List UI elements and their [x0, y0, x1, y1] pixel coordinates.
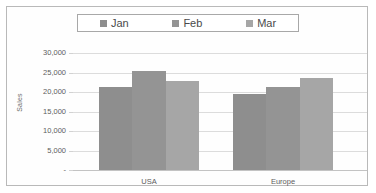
- chart-legend[interactable]: Jan Feb Mar: [77, 14, 299, 32]
- chart-container[interactable]: Jan Feb Mar Sales -5,00010,00015,00020,0…: [6, 6, 368, 186]
- y-axis-tick: [69, 151, 73, 152]
- legend-item-jan[interactable]: Jan: [100, 18, 129, 29]
- x-axis-category-label: USA: [99, 177, 199, 186]
- y-axis-title: Sales: [16, 83, 23, 123]
- legend-item-feb[interactable]: Feb: [172, 18, 202, 29]
- y-axis-tick: [69, 73, 73, 74]
- y-axis-tick-label: 30,000: [43, 49, 66, 57]
- y-axis-tick-label: -: [64, 166, 67, 174]
- y-axis-tick-label: 15,000: [43, 108, 66, 116]
- y-axis-tick: [69, 112, 73, 113]
- legend-label-feb: Feb: [183, 18, 202, 29]
- y-axis-tick-label: 10,000: [43, 127, 66, 135]
- legend-swatch-mar: [246, 20, 253, 27]
- y-axis-tick-label: 20,000: [43, 88, 66, 96]
- bar-usa-feb[interactable]: [132, 71, 165, 170]
- bar-group-usa: USA: [99, 53, 199, 170]
- bar-group-europe: Europe: [233, 53, 333, 170]
- y-axis-tick: [69, 131, 73, 132]
- legend-item-mar[interactable]: Mar: [246, 18, 276, 29]
- x-axis-category-label: Europe: [233, 177, 333, 186]
- y-axis-tick: [69, 53, 73, 54]
- legend-swatch-feb: [172, 20, 179, 27]
- bar-europe-mar[interactable]: [300, 78, 333, 170]
- legend-label-jan: Jan: [111, 18, 129, 29]
- legend-label-mar: Mar: [257, 18, 276, 29]
- y-axis-tick: [69, 92, 73, 93]
- bar-usa-jan[interactable]: [99, 87, 132, 170]
- legend-swatch-jan: [100, 20, 107, 27]
- x-axis-line: [73, 170, 367, 171]
- bar-usa-mar[interactable]: [166, 81, 199, 170]
- y-axis-tick-label: 5,000: [47, 147, 66, 155]
- y-axis-tick-label: 25,000: [43, 69, 66, 77]
- bar-europe-jan[interactable]: [233, 94, 266, 170]
- plot-area: -5,00010,00015,00020,00025,00030,000 USA…: [73, 53, 367, 171]
- bar-europe-feb[interactable]: [266, 87, 299, 170]
